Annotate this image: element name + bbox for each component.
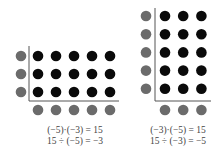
black-dot — [69, 51, 80, 62]
gray-dot — [69, 105, 80, 116]
black-dot — [178, 84, 189, 95]
left-product-dots — [33, 51, 116, 98]
right-division-equation: 15 ÷ (−3) = −5 — [133, 136, 220, 147]
gray-dot — [16, 51, 27, 62]
left-multiplication-equation: (−5)·(−3) = 15 — [30, 125, 120, 136]
gray-dot — [16, 87, 27, 98]
gray-dot — [178, 105, 189, 116]
black-dot — [33, 69, 44, 80]
black-dot — [178, 29, 189, 40]
left-array — [16, 46, 119, 115]
right-product-dots — [160, 11, 207, 94]
black-dot — [51, 87, 62, 98]
black-dot — [105, 51, 116, 62]
black-dot — [87, 51, 98, 62]
right-row-markers — [141, 11, 152, 94]
black-dot — [160, 11, 171, 22]
black-dot — [196, 65, 207, 76]
black-dot — [69, 87, 80, 98]
black-dot — [160, 65, 171, 76]
black-dot — [51, 69, 62, 80]
left-row-markers — [16, 51, 27, 98]
black-dot — [69, 69, 80, 80]
black-dot — [196, 29, 207, 40]
left-column-markers — [33, 105, 116, 116]
gray-dot — [16, 69, 27, 80]
gray-dot — [160, 105, 171, 116]
gray-dot — [33, 105, 44, 116]
black-dot — [160, 47, 171, 58]
black-dot — [33, 51, 44, 62]
black-dot — [87, 87, 98, 98]
left-division-equation: 15 ÷ (−5) = −3 — [30, 136, 120, 147]
gray-dot — [105, 105, 116, 116]
gray-dot — [141, 29, 152, 40]
black-dot — [178, 47, 189, 58]
black-dot — [51, 51, 62, 62]
left-equations: (−5)·(−3) = 15 15 ÷ (−5) = −3 — [30, 125, 120, 147]
gray-dot — [87, 105, 98, 116]
black-dot — [196, 11, 207, 22]
black-dot — [178, 11, 189, 22]
gray-dot — [141, 47, 152, 58]
gray-dot — [141, 84, 152, 95]
gray-dot — [51, 105, 62, 116]
black-dot — [87, 69, 98, 80]
black-dot — [196, 47, 207, 58]
black-dot — [105, 69, 116, 80]
right-multiplication-equation: (−3)·(−5) = 15 — [133, 125, 220, 136]
gray-dot — [141, 11, 152, 22]
black-dot — [178, 65, 189, 76]
right-column-markers — [160, 105, 207, 116]
right-array — [141, 8, 211, 115]
black-dot — [105, 87, 116, 98]
black-dot — [160, 84, 171, 95]
black-dot — [160, 29, 171, 40]
black-dot — [33, 87, 44, 98]
right-equations: (−3)·(−5) = 15 15 ÷ (−3) = −5 — [133, 125, 220, 147]
gray-dot — [196, 105, 207, 116]
gray-dot — [141, 65, 152, 76]
black-dot — [196, 84, 207, 95]
